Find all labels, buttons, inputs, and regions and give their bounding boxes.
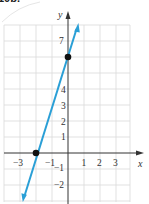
plotted-line (21, 23, 79, 202)
x-tick-label: 2 (97, 158, 102, 168)
coordinate-graph: 10b. x y −3 −1 1 (0, 0, 149, 204)
y-tick-label: 1 (61, 132, 66, 142)
grid (4, 25, 130, 202)
y-axis (66, 11, 71, 204)
y-tick-label: 4 (61, 85, 66, 95)
line-arrow-up-icon (74, 23, 80, 33)
x-axis-label: x (137, 158, 143, 169)
x-tick-labels: −3 −1 1 2 3 (13, 158, 118, 168)
y-tick-label: −2 (54, 180, 64, 190)
x-tick-label: 1 (82, 158, 87, 168)
y-tick-label: 2 (61, 117, 66, 127)
y-axis-arrow-icon (66, 11, 71, 19)
x-intercept-point (33, 150, 40, 157)
y-tick-label: 3 (61, 101, 66, 111)
x-axis-arrow-icon (136, 151, 144, 156)
decorative-arc (2, 2, 40, 22)
x-axis (4, 151, 144, 156)
y-axis-label: y (57, 9, 63, 20)
y-tick-label: 7 (59, 36, 64, 46)
x-tick-label: 3 (113, 158, 118, 168)
problem-number: 10b. (0, 0, 20, 4)
y-tick-label: −1 (54, 163, 64, 173)
y-tick-labels: 7 4 3 2 1 −1 −2 (54, 36, 66, 190)
x-tick-label: −3 (13, 158, 23, 168)
y-intercept-point (65, 54, 72, 61)
